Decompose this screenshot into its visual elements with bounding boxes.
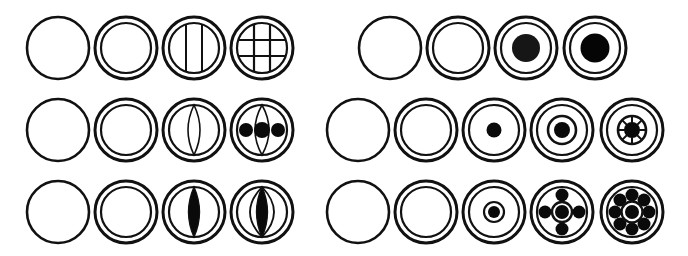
center-dot [554,122,570,138]
outer-ring [231,17,293,79]
filled-lens [257,187,268,237]
inner-ring [169,105,219,155]
inner-ring [169,23,219,73]
circle-glyph-double-lens-beads [231,99,293,161]
wheel-spoke [637,120,642,125]
circle-glyph-double-core-large [495,17,557,79]
circle-glyph-double-filled-lens-arcs [231,181,293,243]
petal-dot [626,189,639,202]
circle-glyph-double-lens [163,99,225,161]
outer-ring [427,17,489,79]
circle-glyph-double-wheel [601,99,663,161]
center-dot [555,205,569,219]
circle-glyph-double [95,17,157,79]
row-1-solid-core [359,17,626,79]
outer-ring [27,99,89,161]
center-dot [625,205,639,219]
row-3-flower [327,181,663,243]
petal-dot [626,223,639,236]
circle-glyph-plain [27,181,89,243]
solid-core [512,34,540,62]
bead-dot [239,123,253,137]
circle-glyph-double [95,181,157,243]
circle-glyph-double [427,17,489,79]
circle-glyph-double-dot [463,99,525,161]
inner-ring [401,105,451,155]
circle-glyph-double-filled-lens [163,181,225,243]
outer-ring [95,99,157,161]
wheel-spoke [622,135,627,140]
petal-dot [573,206,586,219]
inner-ring [237,23,287,73]
center-dot [488,206,500,218]
outer-ring [95,17,157,79]
circle-glyph-plain [27,17,89,79]
outer-ring [327,181,389,243]
outer-ring [163,17,225,79]
circle-glyph-double-four-petals [531,181,593,243]
center-dot [487,123,502,138]
circle-glyph-double [395,181,457,243]
outer-ring [27,17,89,79]
petal-dot [609,206,622,219]
vertical-lines [186,23,202,73]
circle-glyph-double-dot-ring [531,99,593,161]
inner-ring [101,187,151,237]
petal-dot [556,189,569,202]
circle-glyph-double-dot-small-ring [463,181,525,243]
outer-ring [395,181,457,243]
circle-glyph-double-vlines [163,17,225,79]
circle-pattern-diagram [0,0,688,256]
circle-glyph-plain [327,99,389,161]
outer-ring [163,99,225,161]
circle-glyph-double-core-large-dark [564,17,626,79]
outer-ring [95,181,157,243]
circle-glyph-plain [327,181,389,243]
row-2-lens-beads [27,99,293,161]
left-panel [27,17,293,243]
bead-dot [254,122,270,138]
inner-ring [101,23,151,73]
petal-dot [643,206,656,219]
circle-glyph-double [95,99,157,161]
inner-ring [101,105,151,155]
wheel-spoke [622,120,627,125]
inner-ring [433,23,483,73]
row-2-wheel [327,99,663,161]
circle-glyph-double-eight-petals [601,181,663,243]
diagram-canvas [0,0,688,256]
circle-glyph-plain [359,17,421,79]
outer-ring [395,99,457,161]
circle-glyph-double [395,99,457,161]
row-3-filled-lens [27,181,293,243]
row-1-grid [27,17,293,79]
lens-shape [188,105,200,155]
petal-dot [556,223,569,236]
wheel-spoke [637,135,642,140]
circle-glyph-double-grid [231,17,293,79]
filled-lens [189,187,200,237]
inner-ring [401,187,451,237]
right-panel [327,17,663,243]
solid-core [581,34,610,63]
bead-dot [271,123,285,137]
petal-dot [539,206,552,219]
outer-ring [27,181,89,243]
outer-ring [327,99,389,161]
circle-glyph-plain [27,99,89,161]
outer-ring [359,17,421,79]
